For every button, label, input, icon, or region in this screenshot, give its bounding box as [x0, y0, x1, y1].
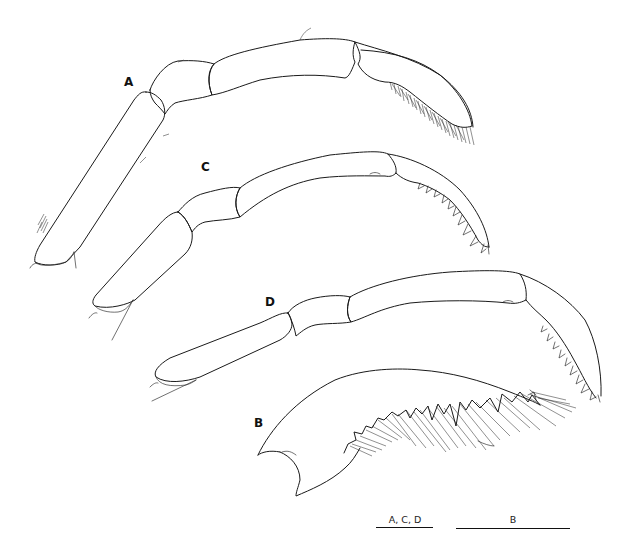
scale-bar-label-b: B — [455, 514, 571, 525]
appendage-d — [150, 271, 601, 402]
panel-label-d: D — [265, 295, 275, 309]
panel-label-c: C — [201, 160, 210, 174]
scale-bar-label-acd: A, C, D — [375, 514, 435, 525]
panel-label-a: A — [124, 75, 133, 89]
appendage-a — [30, 28, 474, 268]
panel-label-b: B — [254, 416, 263, 430]
scale-bar-acd — [376, 527, 433, 528]
scale-bar-b — [456, 528, 570, 529]
appendage-b — [258, 369, 576, 496]
figure-illustration — [0, 0, 629, 554]
